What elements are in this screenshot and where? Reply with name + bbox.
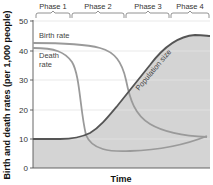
- ytick-0: 0: [24, 164, 29, 173]
- death-rate-label-line2: rate: [39, 60, 52, 69]
- ytick-10: 10: [19, 135, 28, 144]
- ytick-30: 30: [19, 76, 28, 85]
- demographic-transition-chart: 50 40 30 20 10 0 Phase 1 Phase 2 Phase 3…: [0, 0, 213, 185]
- phase-2-label: Phase 2: [84, 2, 112, 11]
- death-rate-label-line1: Death: [39, 51, 59, 60]
- x-axis-title: Time: [111, 174, 132, 184]
- phase-3-label: Phase 3: [134, 2, 162, 11]
- phase-1-label: Phase 1: [39, 2, 67, 11]
- birth-rate-label: Birth rate: [39, 31, 69, 40]
- ytick-20: 20: [19, 106, 28, 115]
- ytick-40: 40: [19, 47, 28, 56]
- phase-brackets: [36, 11, 209, 18]
- phase-4-label: Phase 4: [176, 2, 204, 11]
- y-axis-title: Birth and death rates (per 1,000 people): [2, 10, 12, 179]
- ytick-50: 50: [19, 17, 28, 26]
